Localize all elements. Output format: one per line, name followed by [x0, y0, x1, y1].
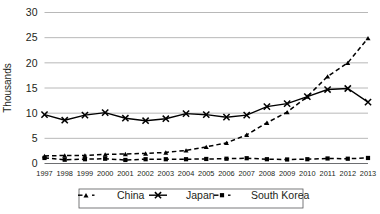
- y-tick-label: 20: [26, 57, 38, 69]
- x-tick-label: 2010: [299, 169, 315, 178]
- series-south-korea: [42, 156, 370, 162]
- data-point-marker-square: [184, 157, 188, 161]
- data-point-marker-square: [103, 157, 107, 161]
- legend-label: South Korea: [251, 189, 310, 201]
- x-tick-label: 2005: [198, 169, 214, 178]
- data-point-marker-square: [204, 157, 208, 161]
- y-tick-label: 10: [26, 107, 38, 119]
- legend-label: Japan: [186, 189, 215, 201]
- x-tick-label: 2004: [178, 169, 194, 178]
- data-point-marker-triangle: [325, 74, 330, 78]
- y-tick-label: 25: [26, 31, 38, 43]
- data-point-marker-triangle: [285, 110, 290, 114]
- chart-container: 051015202530 199719981999200020012002200…: [0, 0, 380, 214]
- data-point-marker-square: [83, 157, 87, 161]
- data-point-marker-square: [305, 157, 309, 161]
- y-tick-label: 5: [32, 132, 38, 144]
- chart-legend: ChinaJapanSouth Korea: [78, 189, 310, 208]
- x-tick-label: 2012: [340, 169, 356, 178]
- x-tick-label: 2002: [137, 169, 153, 178]
- y-axis-tick-labels: 051015202530: [26, 6, 38, 169]
- x-tick-label: 2006: [218, 169, 234, 178]
- data-point-marker-square: [63, 158, 67, 162]
- legend-item-japan[interactable]: Japan: [149, 189, 215, 201]
- data-point-marker-square: [346, 157, 350, 161]
- data-point-marker-square: [366, 156, 370, 160]
- data-point-marker-square: [285, 157, 289, 161]
- y-axis-title: Thousands: [2, 63, 13, 112]
- y-tick-label: 15: [26, 82, 38, 94]
- data-point-marker-square: [123, 158, 127, 162]
- series-group: [41, 36, 371, 162]
- x-tick-label: 1997: [36, 169, 52, 178]
- x-tick-label: 2009: [279, 169, 295, 178]
- data-point-marker-square: [265, 157, 269, 161]
- data-point-marker-triangle: [366, 36, 371, 40]
- data-point-marker-square: [245, 156, 249, 160]
- data-point-marker-square: [164, 157, 168, 161]
- x-axis-tick-labels: 1997199819992000200120022003200420052006…: [36, 169, 376, 178]
- y-tick-label: 30: [26, 6, 38, 18]
- y-tick-label: 0: [32, 157, 38, 169]
- gridlines-group: [45, 13, 369, 139]
- line-chart: 051015202530 199719981999200020012002200…: [0, 0, 380, 214]
- series-china: [42, 36, 371, 158]
- x-tick-label: 1999: [77, 169, 93, 178]
- x-tick-label: 1998: [56, 169, 72, 178]
- data-point-marker-square: [224, 157, 228, 161]
- series-line: [45, 89, 369, 121]
- x-tick-label: 2000: [97, 169, 113, 178]
- legend-item-china[interactable]: China: [78, 189, 145, 201]
- x-tick-label: 2013: [360, 169, 376, 178]
- x-tick-label: 2003: [158, 169, 174, 178]
- legend-label: China: [117, 189, 145, 201]
- data-point-marker-square: [220, 193, 224, 197]
- x-tick-label: 2001: [117, 169, 133, 178]
- data-point-marker-square: [325, 156, 329, 160]
- x-tick-label: 2008: [259, 169, 275, 178]
- data-point-marker-triangle: [264, 121, 269, 125]
- data-point-marker-square: [42, 156, 46, 160]
- data-point-marker-triangle: [84, 193, 89, 197]
- data-point-marker-x: [365, 99, 371, 105]
- data-point-marker-square: [143, 157, 147, 161]
- x-tick-label: 2011: [320, 169, 336, 178]
- legend-item-south-korea[interactable]: South Korea: [214, 189, 310, 201]
- x-tick-label: 2007: [238, 169, 254, 178]
- series-japan: [41, 85, 371, 123]
